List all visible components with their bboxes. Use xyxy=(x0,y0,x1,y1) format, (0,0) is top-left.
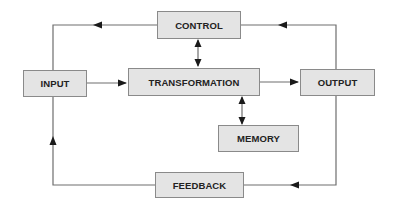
node-control: CONTROL xyxy=(157,11,241,39)
arrowhead-up-icon xyxy=(50,136,57,145)
edge-output-control xyxy=(240,25,336,69)
node-feedback: FEEDBACK xyxy=(155,172,244,198)
arrowhead-left-icon xyxy=(290,182,299,189)
arrowhead-right-icon xyxy=(290,79,299,86)
arrowhead-down-icon xyxy=(195,59,202,67)
arrowhead-left-icon xyxy=(278,22,287,29)
node-input: INPUT xyxy=(23,70,87,97)
arrowhead-up-icon xyxy=(239,96,246,104)
arrowhead-down-icon xyxy=(239,117,246,125)
node-memory: MEMORY xyxy=(218,125,299,152)
node-output: OUTPUT xyxy=(300,69,375,96)
arrowhead-right-icon xyxy=(118,80,127,87)
arrowhead-left-icon xyxy=(93,22,102,29)
edge-feedback-input xyxy=(53,96,155,185)
node-transformation: TRANSFORMATION xyxy=(128,68,260,96)
edge-control-input xyxy=(53,25,157,70)
arrowhead-up-icon xyxy=(195,39,202,47)
